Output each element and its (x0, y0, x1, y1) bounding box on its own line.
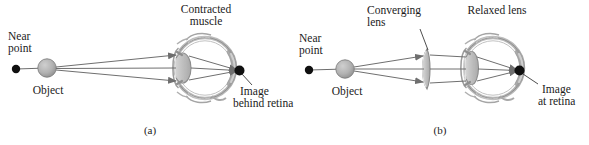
rays-a-incoming (56, 55, 176, 81)
leader-line-converging-lens (420, 29, 428, 50)
contracted-lens-a (174, 53, 191, 83)
label-converging-lens-line1: Converging (367, 4, 421, 16)
label-object-a: Object (33, 84, 64, 96)
label-image-b-line1: Image (542, 83, 571, 95)
label-object-b: Object (332, 85, 363, 97)
caption-panel-b: (b) (434, 124, 447, 136)
label-contracted-muscle-line1: Contracted (181, 3, 231, 15)
optics-diagram (0, 0, 589, 145)
leader-line-image-a (242, 74, 252, 85)
label-near-point-a-line1: Near (8, 30, 30, 42)
label-image-a-line1: Image (240, 85, 269, 97)
near-point-dot-b (305, 66, 313, 74)
label-image-b-line2: at retina (538, 95, 575, 107)
label-converging-lens-line2: lens (367, 16, 386, 28)
near-point-dot-a (12, 65, 20, 73)
figure-canvas: Near point Object Contracted muscle Imag… (0, 0, 589, 145)
caption-panel-a: (a) (144, 124, 156, 136)
object-sphere-b (336, 60, 354, 78)
label-image-a-line2: behind retina (233, 97, 293, 109)
relaxed-lens-b (465, 52, 479, 85)
label-near-point-a-line2: point (8, 42, 32, 54)
label-contracted-muscle-line2: muscle (190, 15, 223, 27)
leader-line-image-b (523, 74, 538, 84)
label-near-point-b-line2: point (299, 44, 323, 56)
object-sphere-a (38, 59, 56, 77)
label-relaxed-lens: Relaxed lens (467, 4, 526, 16)
label-near-point-b-line1: Near (299, 32, 321, 44)
image-dot-a (235, 66, 245, 76)
rays-b-lens-to-eye (430, 55, 466, 83)
rays-b-to-lens (354, 56, 424, 82)
